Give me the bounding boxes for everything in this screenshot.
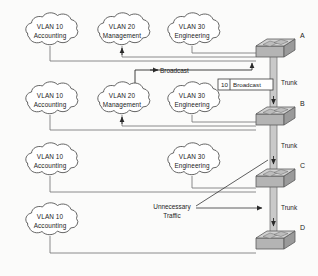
cloud-vlan-name: Accounting xyxy=(34,101,67,109)
access-link-r3-vlan30 xyxy=(192,176,256,188)
cloud-group: VLAN 10 Accounting VLAN 20 Management VL… xyxy=(26,13,220,235)
cloud-vlan-name: Management xyxy=(103,101,141,109)
access-link-r1-vlan10 xyxy=(50,46,256,61)
cloud-vlan-id: VLAN 20 xyxy=(109,92,136,99)
cloud-vlan-id: VLAN 10 xyxy=(37,23,64,30)
broadcast-flow-label: Broadcast xyxy=(160,67,189,74)
cloud-vlan20-management-r1: VLAN 20 Management xyxy=(98,13,150,45)
network-diagram: VLAN 10 Accounting VLAN 20 Management VL… xyxy=(0,0,318,276)
unnecessary-traffic-line2: Traffic xyxy=(163,212,181,219)
trunk-label-ab: Trunk xyxy=(281,79,298,86)
diagram-canvas: VLAN 10 Accounting VLAN 20 Management VL… xyxy=(0,0,318,276)
access-link-group xyxy=(50,46,256,253)
access-link-r2-vlan20 xyxy=(122,115,256,126)
cloud-vlan-id: VLAN 10 xyxy=(37,153,64,160)
cloud-vlan-name: Accounting xyxy=(34,222,67,230)
trunk-label-group: Trunk Trunk Trunk xyxy=(281,79,298,211)
switch-a-label: A xyxy=(300,32,305,39)
cloud-vlan-id: VLAN 30 xyxy=(179,23,206,30)
unnecessary-traffic-line1: Unnecessary xyxy=(153,203,191,211)
access-link-r1-vlan20 xyxy=(122,46,256,57)
switch-c[interactable]: C xyxy=(256,162,305,187)
cloud-vlan10-accounting-r3: VLAN 10 Accounting xyxy=(26,143,78,175)
access-link-r4-vlan10 xyxy=(50,236,256,253)
access-link-r2-vlan30 xyxy=(192,115,256,122)
switch-c-label: C xyxy=(300,162,305,169)
trunk-group xyxy=(270,48,277,234)
switch-d[interactable]: D xyxy=(256,224,305,249)
cloud-vlan30-engineering-r2: VLAN 30 Engineering xyxy=(168,82,220,114)
cloud-vlan30-engineering-r1: VLAN 30 Engineering xyxy=(168,13,220,45)
cloud-vlan-name: Engineering xyxy=(174,32,210,40)
trunk-label-bc: Trunk xyxy=(281,142,298,149)
cloud-vlan30-engineering-r3: VLAN 30 Engineering xyxy=(168,143,220,175)
cloud-vlan-name: Accounting xyxy=(34,162,67,170)
cloud-vlan10-accounting-r4: VLAN 10 Accounting xyxy=(26,203,78,235)
switch-b-label: B xyxy=(300,100,305,107)
access-link-r1-vlan30 xyxy=(192,46,256,53)
access-link-r2-vlan10 xyxy=(50,115,256,130)
cloud-vlan-name: Engineering xyxy=(174,162,210,170)
tag-frame-label: Broadcast xyxy=(233,81,261,88)
cloud-vlan-id: VLAN 30 xyxy=(179,153,206,160)
trunk-label-cd: Trunk xyxy=(281,204,298,211)
cloud-vlan20-management-r2: VLAN 20 Management xyxy=(98,82,150,114)
access-link-r3-vlan10 xyxy=(50,176,256,192)
cloud-vlan10-accounting-r1: VLAN 10 Accounting xyxy=(26,13,78,45)
switch-group: A B C xyxy=(256,32,305,249)
cloud-vlan-id: VLAN 20 xyxy=(109,23,136,30)
tag-vlan-id: 10 xyxy=(221,81,228,88)
cloud-vlan-id: VLAN 10 xyxy=(37,92,64,99)
switch-a[interactable]: A xyxy=(256,32,305,57)
switch-d-label: D xyxy=(300,224,305,231)
cloud-vlan-id: VLAN 10 xyxy=(37,213,64,220)
switch-b[interactable]: B xyxy=(256,100,305,125)
cloud-vlan-name: Accounting xyxy=(34,32,67,40)
cloud-vlan-id: VLAN 30 xyxy=(179,92,206,99)
cloud-vlan-name: Management xyxy=(103,32,141,40)
tagged-frame-box: 10 Broadcast xyxy=(218,79,273,90)
cloud-vlan-name: Engineering xyxy=(174,101,210,109)
cloud-vlan10-accounting-r2: VLAN 10 Accounting xyxy=(26,82,78,114)
